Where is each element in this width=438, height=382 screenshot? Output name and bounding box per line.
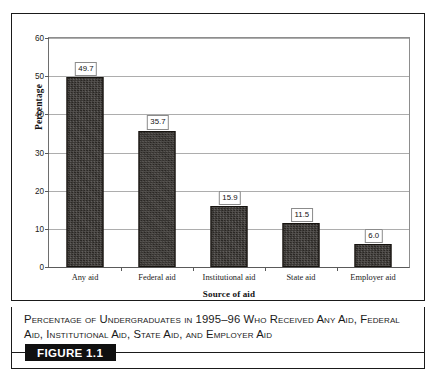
- bar[interactable]: [139, 131, 176, 267]
- y-axis-tick-mark: [45, 267, 49, 268]
- y-axis-tick-label: 10: [35, 224, 44, 233]
- x-axis-category-label: Institutional aid: [203, 273, 256, 282]
- x-axis-category-label: Employer aid: [350, 273, 395, 282]
- y-axis-tick-label: 0: [39, 263, 44, 272]
- y-axis-tick-label: 20: [35, 186, 44, 195]
- bar-slot: 49.7: [49, 38, 121, 267]
- caption-block: Percentage of Undergraduates in 1995–96 …: [11, 307, 425, 369]
- chart-frame: Percentage 0102030405060 49.735.715.911.…: [11, 13, 425, 301]
- bar[interactable]: [283, 223, 320, 267]
- bar-value-label: 35.7: [147, 115, 169, 129]
- figure-tag-row: FIGURE 1.1: [12, 344, 424, 361]
- figure-number-badge: FIGURE 1.1: [25, 344, 116, 361]
- bar-slot: 35.7: [121, 38, 193, 267]
- y-axis-tick-label: 60: [35, 34, 44, 43]
- y-axis-tick-label: 40: [35, 110, 44, 119]
- x-axis-tick-mark: [337, 267, 338, 271]
- bar[interactable]: [67, 77, 104, 267]
- bars-group: 49.735.715.911.56.0: [49, 38, 409, 267]
- bar[interactable]: [211, 206, 248, 267]
- x-axis-title: Source of aid: [48, 289, 410, 299]
- y-axis-tick-label: 30: [35, 148, 44, 157]
- bar[interactable]: [355, 244, 392, 267]
- x-axis-tick-mark: [193, 267, 194, 271]
- bar-value-label: 49.7: [75, 62, 97, 76]
- x-axis-category-label: Any aid: [72, 273, 99, 282]
- y-axis-tick-label: 50: [35, 72, 44, 81]
- x-axis-category-label: Federal aid: [138, 273, 175, 282]
- bar-value-label: 6.0: [365, 229, 383, 243]
- bar-slot: 6.0: [337, 38, 409, 267]
- x-axis-tick-mark: [121, 267, 122, 271]
- figure-caption: Percentage of Undergraduates in 1995–96 …: [24, 312, 416, 342]
- bar-slot: 15.9: [193, 38, 265, 267]
- x-axis-category-label: State aid: [286, 273, 315, 282]
- plot-area: 0102030405060 49.735.715.911.56.0 Any ai…: [48, 37, 410, 268]
- bar-value-label: 11.5: [291, 208, 313, 222]
- x-axis-tick-mark: [265, 267, 266, 271]
- bar-value-label: 15.9: [219, 191, 241, 205]
- bar-slot: 11.5: [265, 38, 337, 267]
- figure-container: Percentage 0102030405060 49.735.715.911.…: [0, 0, 438, 382]
